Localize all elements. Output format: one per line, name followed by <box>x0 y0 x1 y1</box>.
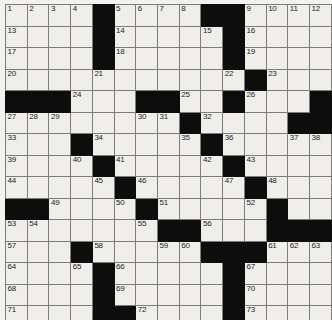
crossword-cell[interactable] <box>179 155 201 177</box>
crossword-cell[interactable]: 30 <box>136 112 158 134</box>
crossword-cell[interactable] <box>288 26 310 48</box>
crossword-cell[interactable] <box>27 155 49 177</box>
crossword-cell[interactable] <box>92 112 114 134</box>
crossword-cell[interactable]: 11 <box>288 5 310 27</box>
crossword-cell[interactable] <box>158 69 180 91</box>
crossword-cell[interactable] <box>310 177 332 199</box>
crossword-cell[interactable] <box>179 26 201 48</box>
crossword-cell[interactable] <box>266 155 288 177</box>
crossword-cell[interactable] <box>158 155 180 177</box>
crossword-cell[interactable] <box>136 241 158 263</box>
crossword-cell[interactable]: 71 <box>6 306 28 320</box>
crossword-cell[interactable] <box>288 284 310 306</box>
crossword-cell[interactable]: 58 <box>92 241 114 263</box>
crossword-cell[interactable]: 48 <box>266 177 288 199</box>
crossword-cell[interactable]: 34 <box>92 134 114 156</box>
crossword-cell[interactable]: 26 <box>244 91 266 113</box>
crossword-cell[interactable]: 45 <box>92 177 114 199</box>
crossword-cell[interactable] <box>244 112 266 134</box>
crossword-cell[interactable]: 42 <box>201 155 223 177</box>
crossword-cell[interactable] <box>71 177 93 199</box>
crossword-cell[interactable] <box>179 284 201 306</box>
crossword-cell[interactable]: 33 <box>6 134 28 156</box>
crossword-cell[interactable] <box>27 134 49 156</box>
crossword-cell[interactable] <box>158 263 180 285</box>
crossword-cell[interactable]: 62 <box>288 241 310 263</box>
crossword-cell[interactable] <box>201 91 223 113</box>
crossword-cell[interactable]: 25 <box>179 91 201 113</box>
crossword-cell[interactable]: 12 <box>310 5 332 27</box>
crossword-cell[interactable] <box>49 263 71 285</box>
crossword-cell[interactable] <box>158 284 180 306</box>
crossword-cell[interactable]: 57 <box>6 241 28 263</box>
crossword-cell[interactable]: 3 <box>49 5 71 27</box>
crossword-cell[interactable] <box>310 26 332 48</box>
crossword-cell[interactable]: 51 <box>158 198 180 220</box>
crossword-cell[interactable] <box>92 198 114 220</box>
crossword-cell[interactable]: 36 <box>223 134 245 156</box>
crossword-cell[interactable] <box>288 198 310 220</box>
crossword-cell[interactable]: 13 <box>6 26 28 48</box>
crossword-cell[interactable] <box>179 177 201 199</box>
crossword-cell[interactable] <box>27 263 49 285</box>
crossword-cell[interactable] <box>49 241 71 263</box>
crossword-cell[interactable]: 28 <box>27 112 49 134</box>
crossword-cell[interactable] <box>288 306 310 320</box>
crossword-cell[interactable]: 63 <box>310 241 332 263</box>
crossword-cell[interactable]: 9 <box>244 5 266 27</box>
crossword-cell[interactable]: 32 <box>201 112 223 134</box>
crossword-cell[interactable]: 10 <box>266 5 288 27</box>
crossword-cell[interactable] <box>179 198 201 220</box>
crossword-cell[interactable]: 6 <box>136 5 158 27</box>
crossword-cell[interactable]: 1 <box>6 5 28 27</box>
crossword-cell[interactable] <box>179 69 201 91</box>
crossword-cell[interactable] <box>158 306 180 320</box>
crossword-cell[interactable]: 41 <box>114 155 136 177</box>
crossword-cell[interactable] <box>288 177 310 199</box>
crossword-cell[interactable] <box>71 284 93 306</box>
crossword-cell[interactable] <box>27 241 49 263</box>
crossword-cell[interactable] <box>136 263 158 285</box>
crossword-cell[interactable]: 14 <box>114 26 136 48</box>
crossword-cell[interactable]: 39 <box>6 155 28 177</box>
crossword-cell[interactable] <box>49 220 71 242</box>
crossword-cell[interactable]: 2 <box>27 5 49 27</box>
crossword-cell[interactable]: 60 <box>179 241 201 263</box>
crossword-cell[interactable] <box>92 91 114 113</box>
crossword-cell[interactable] <box>310 306 332 320</box>
crossword-cell[interactable] <box>71 69 93 91</box>
crossword-cell[interactable] <box>114 91 136 113</box>
crossword-cell[interactable]: 53 <box>6 220 28 242</box>
crossword-cell[interactable] <box>201 198 223 220</box>
crossword-cell[interactable] <box>136 284 158 306</box>
crossword-cell[interactable] <box>179 263 201 285</box>
crossword-cell[interactable] <box>27 284 49 306</box>
crossword-cell[interactable] <box>136 134 158 156</box>
crossword-cell[interactable] <box>201 306 223 320</box>
crossword-cell[interactable] <box>201 263 223 285</box>
crossword-cell[interactable]: 5 <box>114 5 136 27</box>
crossword-cell[interactable]: 19 <box>244 48 266 70</box>
crossword-cell[interactable] <box>266 134 288 156</box>
crossword-cell[interactable] <box>310 48 332 70</box>
crossword-cell[interactable]: 54 <box>27 220 49 242</box>
crossword-cell[interactable] <box>310 263 332 285</box>
crossword-cell[interactable] <box>136 48 158 70</box>
crossword-cell[interactable] <box>49 26 71 48</box>
crossword-cell[interactable]: 40 <box>71 155 93 177</box>
crossword-cell[interactable] <box>27 306 49 320</box>
crossword-cell[interactable] <box>266 284 288 306</box>
crossword-cell[interactable] <box>27 26 49 48</box>
crossword-cell[interactable]: 61 <box>266 241 288 263</box>
crossword-cell[interactable] <box>288 48 310 70</box>
crossword-cell[interactable] <box>114 134 136 156</box>
crossword-cell[interactable]: 67 <box>244 263 266 285</box>
crossword-cell[interactable] <box>179 48 201 70</box>
crossword-cell[interactable] <box>158 48 180 70</box>
crossword-cell[interactable] <box>49 177 71 199</box>
crossword-cell[interactable]: 35 <box>179 134 201 156</box>
crossword-cell[interactable] <box>71 112 93 134</box>
crossword-cell[interactable] <box>49 48 71 70</box>
crossword-cell[interactable] <box>266 48 288 70</box>
crossword-cell[interactable] <box>49 306 71 320</box>
